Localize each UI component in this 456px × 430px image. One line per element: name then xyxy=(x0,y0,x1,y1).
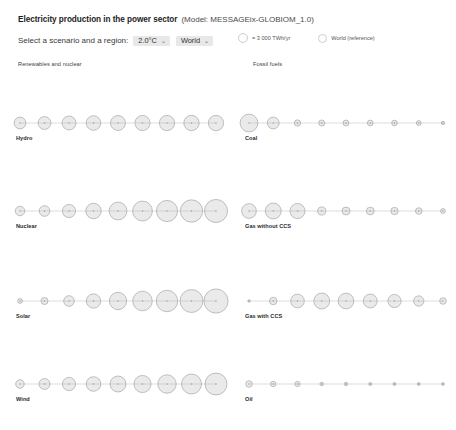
legend-reference-label: World (reference) xyxy=(331,35,374,41)
bubble-center-dot xyxy=(248,210,249,211)
bubble-center-dot xyxy=(215,210,216,211)
legend-size-circle-icon xyxy=(238,33,248,43)
section-header-renewables: Renewables and nuclear xyxy=(18,61,82,67)
bubble-center-dot xyxy=(321,122,322,123)
bubble-center-dot xyxy=(370,300,371,301)
bubble-row: Gas with CCS xyxy=(243,262,453,340)
bubble-center-dot xyxy=(191,383,192,384)
bubble-center-dot xyxy=(394,210,395,211)
bubble-row-plot xyxy=(14,172,226,250)
bubble-center-dot xyxy=(442,300,443,301)
bubble-center-dot xyxy=(418,300,419,301)
bubble-center-dot xyxy=(117,122,118,123)
bubble-center-dot xyxy=(345,383,346,384)
chevron-down-icon: ⌄ xyxy=(204,38,209,44)
bubble-row-plot xyxy=(243,340,453,428)
bubble-row: Gas without CCS xyxy=(243,172,453,250)
bubble-row-label: Nuclear xyxy=(16,223,37,229)
bubble-center-dot xyxy=(142,300,143,301)
bubble-row-plot xyxy=(14,92,226,154)
bubble-row-label: Oil xyxy=(245,396,253,402)
bubble-center-dot xyxy=(68,210,69,211)
page-title: Electricity production in the power sect… xyxy=(18,15,314,24)
legend-size-label: = 3 000 TWh/yr xyxy=(252,35,290,41)
bubble-center-dot xyxy=(166,300,167,301)
bubble-center-dot xyxy=(321,210,322,211)
bubble-row-plot xyxy=(243,172,453,250)
legend-size-item: = 3 000 TWh/yr xyxy=(238,33,290,43)
bubble-center-dot xyxy=(191,210,192,211)
bubble-center-dot xyxy=(142,122,143,123)
bubble-center-dot xyxy=(321,383,322,384)
bubble-center-dot xyxy=(273,300,274,301)
bubble-center-dot xyxy=(117,383,118,384)
chevron-down-icon: ⌄ xyxy=(161,38,166,44)
bubble-center-dot xyxy=(44,300,45,301)
bubble-center-dot xyxy=(142,383,143,384)
bubble-center-dot xyxy=(93,210,94,211)
bubble-center-dot xyxy=(215,122,216,123)
bubble-row-label: Gas with CCS xyxy=(245,313,282,319)
bubble-center-dot xyxy=(248,383,249,384)
bubble-center-dot xyxy=(142,210,143,211)
bubble-center-dot xyxy=(19,300,20,301)
bubble-center-dot xyxy=(370,383,371,384)
bubble-center-dot xyxy=(93,122,94,123)
region-select[interactable]: World ⌄ xyxy=(176,36,213,46)
region-select-value: World xyxy=(181,36,200,45)
bubble-center-dot xyxy=(191,122,192,123)
bubble-center-dot xyxy=(394,383,395,384)
bubble-row-plot xyxy=(14,340,226,428)
bubble-center-dot xyxy=(442,383,443,384)
bubble-row: Nuclear xyxy=(14,172,224,250)
bubble-center-dot xyxy=(68,300,69,301)
bubble-center-dot xyxy=(370,122,371,123)
bubble-row-label: Solar xyxy=(16,313,30,319)
bubble-center-dot xyxy=(19,210,20,211)
bubble-row-label: Wind xyxy=(16,396,30,402)
bubble-center-dot xyxy=(166,210,167,211)
bubble-center-dot xyxy=(248,300,249,301)
bubble-center-dot xyxy=(117,210,118,211)
bubble-center-dot xyxy=(117,300,118,301)
controls-label: Select a scenario and a region: xyxy=(18,36,128,45)
scenario-select-value: 2.0°C xyxy=(138,36,157,45)
bubble-center-dot xyxy=(297,122,298,123)
bubble-center-dot xyxy=(297,210,298,211)
legend: = 3 000 TWh/yr World (reference) xyxy=(238,33,375,43)
bubble-center-dot xyxy=(321,300,322,301)
bubble-center-dot xyxy=(345,210,346,211)
bubble-center-dot xyxy=(248,122,249,123)
bubble-row: Hydro xyxy=(14,92,224,154)
bubble-center-dot xyxy=(19,122,20,123)
bubble-row: Solar xyxy=(14,262,224,340)
legend-reference-item: World (reference) xyxy=(318,34,374,43)
bubble-center-dot xyxy=(273,210,274,211)
bubble-center-dot xyxy=(68,122,69,123)
bubble-row: Coal xyxy=(243,92,453,154)
bubble-center-dot xyxy=(215,383,216,384)
bubble-center-dot xyxy=(273,383,274,384)
bubble-row-label: Coal xyxy=(245,135,257,141)
bubble-center-dot xyxy=(394,122,395,123)
bubble-row: Wind xyxy=(14,340,224,428)
chart-page: Electricity production in the power sect… xyxy=(0,0,456,430)
bubble-center-dot xyxy=(418,383,419,384)
model-name: (Model: MESSAGEix-GLOBIOM_1.0) xyxy=(181,15,313,24)
bubble-center-dot xyxy=(44,122,45,123)
bubble-center-dot xyxy=(297,300,298,301)
scenario-select[interactable]: 2.0°C ⌄ xyxy=(133,36,170,46)
bubble-center-dot xyxy=(418,122,419,123)
bubble-center-dot xyxy=(370,210,371,211)
bubble-row-plot xyxy=(243,262,453,340)
bubble-center-dot xyxy=(297,383,298,384)
bubble-center-dot xyxy=(166,122,167,123)
bubble-center-dot xyxy=(442,210,443,211)
bubble-center-dot xyxy=(19,383,20,384)
bubble-row: Oil xyxy=(243,340,453,428)
bubble-center-dot xyxy=(345,122,346,123)
bubble-center-dot xyxy=(93,383,94,384)
bubble-center-dot xyxy=(394,300,395,301)
section-header-fossil: Fossil fuels xyxy=(253,61,282,67)
bubble-center-dot xyxy=(442,122,443,123)
